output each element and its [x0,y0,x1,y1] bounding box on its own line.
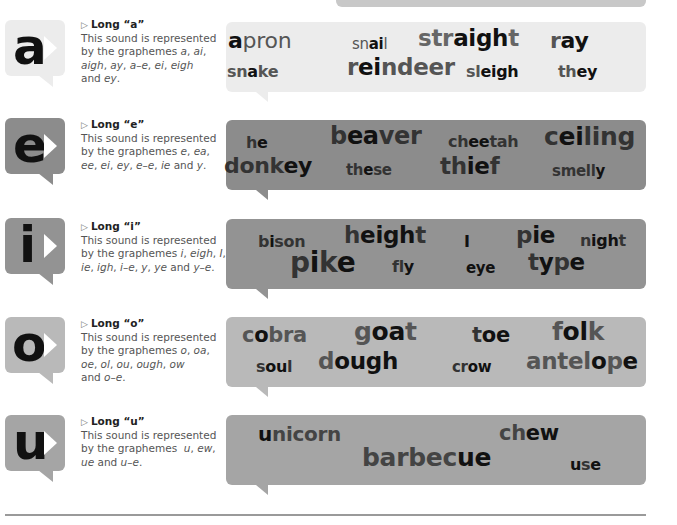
section-description: ▷Long “a” This sound is represented by t… [81,18,231,85]
word-straight: straight [418,25,519,51]
letter-u-icon: u [5,415,65,471]
word-bubble-i: bison height I pie night pike fly eye ty… [226,219,646,289]
section-title: Long “a” [91,18,144,30]
triangle-icon: ▷ [81,120,88,130]
word-beaver: beaver [330,122,422,150]
section-long-o: o ▷Long “o” This sound is represented by… [0,300,677,395]
word-use: use [570,455,601,474]
word-apron: apron [228,28,291,53]
desc-line: ie, igh, i–e, y, ye and y–e. [81,261,231,274]
word-chew: chew [499,421,559,445]
letter-glyph: i [19,214,36,276]
desc-line: ee, ei, ey, e–e, ie and y. [81,159,231,172]
letter-e-icon: e [5,118,65,174]
bubble-tail [256,387,268,397]
letter-o-icon: o [5,317,65,373]
letter-glyph: e [13,114,47,176]
bubble-tail [38,75,53,87]
section-long-i: i ▷Long “i” This sound is represented by… [0,200,677,295]
desc-line: This sound is represented [81,234,231,247]
word-night: night [580,231,626,250]
bubble-tail [256,190,268,200]
word-soul: soul [256,357,292,376]
word-he: he [246,133,268,152]
bubble-tail [38,372,53,384]
triangle-icon: ▷ [81,20,88,30]
play-icon [44,333,57,357]
desc-line: by the graphemes o, oa, [81,344,231,357]
word-bubble-u: unicorn chew barbecue use [226,415,646,485]
word-folk: folk [552,317,604,346]
desc-line: and ey. [81,72,231,85]
letter-a-icon: a [5,20,65,76]
word-they: they [558,62,597,81]
word-reindeer: reindeer [347,54,455,80]
word-goat: goat [354,317,417,346]
section-title: Long “o” [91,317,145,329]
triangle-icon: ▷ [81,222,88,232]
section-description: ▷Long “i” This sound is represented by t… [81,220,231,274]
desc-line: by the graphemes a, ai, [81,45,231,58]
section-title: Long “i” [91,220,141,232]
desc-line: by the graphemes e, ea, [81,145,231,158]
desc-line: This sound is represented [81,429,231,442]
section-description: ▷Long “u” This sound is represented by t… [81,415,231,469]
desc-line: and o–e. [81,371,231,384]
bubble-tail [256,289,268,299]
letter-glyph: a [13,16,47,78]
word-unicorn: unicorn [258,422,341,446]
word-bubble-a: apron snail straight ray snake reindeer … [226,22,646,92]
desc-line: by the graphemes i, eigh, I, [81,247,231,260]
word-snail: snail [352,35,387,53]
word-cobra: cobra [242,323,307,347]
word-ray: ray [550,28,588,53]
word-pike: pike [290,246,355,279]
word-fly: fly [392,257,414,276]
desc-line: ue and u–e. [81,456,231,469]
word-bubble-o: cobra goat toe folk soul dough crow ante… [226,317,646,387]
section-description: ▷Long “o” This sound is represented by t… [81,317,231,384]
word-barbecue: barbecue [362,443,491,472]
word-height: height [344,222,426,248]
word-toe: toe [472,323,510,347]
bottom-divider [5,514,646,516]
desc-line: This sound is represented [81,132,231,145]
bubble-tail [38,173,53,185]
word-ceiling: ceiling [544,122,635,151]
section-long-e: e ▷Long “e” This sound is represented by… [0,100,677,195]
section-long-a: a ▷Long “a” This sound is represented by… [0,0,677,95]
triangle-icon: ▷ [81,319,88,329]
word-these: these [346,161,392,179]
section-description: ▷Long “e” This sound is represented by t… [81,118,231,172]
word-crow: crow [452,358,491,376]
letter-i-icon: i [5,218,65,274]
play-icon [44,36,57,60]
desc-line: This sound is represented [81,32,231,45]
word-donkey: donkey [224,153,312,178]
word-type: type [528,249,585,275]
play-icon [44,431,57,455]
word-eye: eye [466,259,495,277]
bubble-tail [38,470,53,482]
word-snake: snake [227,62,278,81]
word-cheetah: cheetah [448,132,518,151]
triangle-icon: ▷ [81,417,88,427]
bubble-tail [256,485,268,495]
section-long-u: u ▷Long “u” This sound is represented by… [0,400,677,495]
section-title: Long “u” [91,415,145,427]
word-smelly: smelly [552,162,605,180]
play-icon [44,134,57,158]
desc-line: oe, ol, ou, ough, ow [81,358,231,371]
desc-line: This sound is represented [81,331,231,344]
word-thief: thief [440,153,499,179]
desc-line: aigh, ay, a–e, ei, eigh [81,59,231,72]
word-sleigh: sleigh [466,62,518,81]
play-icon [44,234,57,258]
word-I: I [464,232,470,251]
bubble-tail [38,273,53,285]
section-title: Long “e” [91,118,144,130]
letter-glyph: o [12,313,46,375]
desc-line: by the graphemes u, ew, [81,442,231,455]
word-pie: pie [516,222,555,248]
word-antelope: antelope [526,348,638,374]
